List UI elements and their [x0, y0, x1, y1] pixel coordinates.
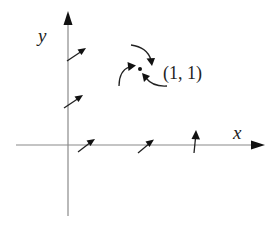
- vector-arrow-y-lower: [64, 95, 83, 108]
- vector-arrow-y-upper: [67, 48, 86, 61]
- point-label: (1, 1): [163, 63, 202, 84]
- x-axis-arrowhead: [251, 141, 265, 150]
- y-axis-label: y: [36, 25, 47, 46]
- vector-arrow-x-2: [138, 140, 154, 154]
- point-marker: [138, 67, 142, 71]
- vector-arrow-x-3: [192, 130, 201, 153]
- curved-arrow-left: [119, 62, 136, 86]
- y-axis-arrowhead: [64, 11, 73, 25]
- curved-arrow-top: [131, 45, 155, 66]
- x-axis-label: x: [232, 122, 242, 143]
- diagram-canvas: y x (1, 1): [0, 0, 276, 227]
